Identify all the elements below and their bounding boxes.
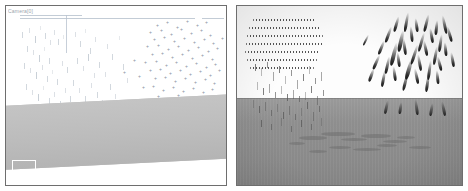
plus-marker: + — [171, 55, 174, 60]
plus-marker: + — [152, 84, 155, 89]
plus-marker: + — [218, 68, 221, 73]
plus-marker: + — [133, 58, 136, 63]
plus-marker: + — [189, 72, 192, 77]
plus-marker: + — [197, 45, 200, 50]
plus-marker: + — [162, 88, 165, 93]
left-particle-tick — [58, 39, 59, 45]
left-particle-tick — [112, 54, 113, 60]
left-particle-tick — [119, 36, 120, 40]
plus-marker: + — [201, 53, 204, 58]
plus-marker: + — [164, 75, 167, 80]
plus-marker: + — [209, 33, 212, 38]
left-particle-tick — [91, 83, 92, 88]
plus-marker: + — [185, 64, 188, 69]
left-particle-tick — [115, 94, 116, 99]
plus-marker: + — [163, 35, 166, 40]
left-rule — [20, 15, 82, 16]
left-particle-tick — [79, 88, 80, 93]
plus-marker: + — [157, 43, 160, 48]
left-particle-tick — [95, 37, 96, 42]
plus-marker: + — [207, 49, 210, 54]
selection-box[interactable] — [12, 160, 36, 175]
left-particle-tick — [73, 80, 74, 86]
plus-marker: + — [146, 44, 149, 49]
plus-marker: + — [173, 39, 176, 44]
left-particle-tick — [40, 26, 41, 30]
left-particle-tick — [52, 70, 53, 74]
right-simulation-panel[interactable] — [236, 5, 463, 186]
left-particle-tick — [57, 79, 58, 85]
plus-marker: + — [190, 31, 193, 36]
left-particle-tick — [67, 67, 68, 73]
left-particle-tick — [99, 62, 100, 68]
left-camera-label: Camera[0] — [8, 8, 33, 14]
plus-marker: + — [209, 73, 212, 78]
plus-marker: + — [200, 28, 203, 33]
plus-marker: + — [191, 56, 194, 61]
left-particle-tick — [30, 68, 31, 73]
left-ground-shading — [5, 94, 227, 170]
left-particle-tick — [54, 92, 55, 97]
left-particle-tick — [105, 72, 106, 77]
plus-marker: + — [205, 65, 208, 70]
left-particle-tick — [97, 92, 98, 98]
left-particle-tick — [29, 28, 30, 33]
left-particle-tick — [54, 30, 55, 35]
left-ground-band — [5, 94, 227, 170]
left-particle-tick — [47, 76, 48, 82]
plus-marker: + — [221, 36, 224, 41]
left-particle-tick — [50, 40, 51, 45]
plus-marker: + — [170, 32, 173, 37]
left-particle-tick — [22, 32, 23, 38]
left-particle-tick — [24, 63, 25, 69]
left-particle-tick — [70, 96, 71, 102]
left-particle-tick — [110, 84, 111, 90]
plus-marker: + — [138, 74, 141, 79]
plus-marker: + — [177, 44, 180, 49]
plus-marker: + — [154, 76, 157, 81]
plus-marker: + — [183, 36, 186, 41]
plus-marker: + — [193, 40, 196, 45]
plus-marker: + — [205, 20, 208, 25]
left-simulation-panel[interactable]: Camera[0] ++++++++++++++++++++++++++++++… — [5, 5, 227, 186]
plus-marker: + — [196, 23, 199, 28]
left-vertical-rule — [66, 15, 67, 53]
left-particle-tick — [42, 65, 43, 70]
left-particle-tick — [33, 50, 34, 55]
plus-marker: + — [161, 51, 164, 56]
plus-marker: + — [149, 68, 152, 73]
plus-marker: + — [187, 48, 190, 53]
plus-marker: + — [166, 20, 169, 25]
plus-marker: + — [123, 70, 126, 75]
plus-marker: + — [202, 90, 205, 95]
plus-marker: + — [182, 89, 185, 94]
left-particle-tick — [35, 36, 36, 43]
plus-marker: + — [184, 76, 187, 81]
left-particle-tick — [38, 94, 39, 101]
left-particle-tick — [65, 88, 66, 93]
plus-marker: + — [149, 30, 152, 35]
plus-marker: + — [159, 67, 162, 72]
plus-marker: + — [151, 52, 154, 57]
left-particle-tick — [39, 55, 40, 62]
plus-marker: + — [181, 52, 184, 57]
plus-marker: + — [144, 60, 147, 65]
left-particle-tick — [43, 86, 44, 90]
left-particle-tick — [49, 58, 50, 64]
plus-marker: + — [167, 47, 170, 52]
plus-marker: + — [153, 37, 156, 42]
left-particle-tick — [26, 84, 27, 90]
left-particle-tick — [90, 48, 91, 54]
plus-marker: + — [155, 59, 158, 64]
plus-marker: + — [160, 28, 163, 33]
left-particle-tick — [45, 33, 46, 39]
plus-marker: + — [195, 61, 198, 66]
plus-marker: + — [211, 87, 214, 92]
plus-marker: + — [180, 27, 183, 32]
plus-marker: + — [212, 41, 215, 46]
plus-marker: + — [142, 85, 145, 90]
plus-marker: + — [165, 63, 168, 68]
left-particle-tick — [127, 78, 128, 83]
left-particle-tick — [77, 58, 78, 64]
right-vignette-overlay — [237, 6, 462, 185]
